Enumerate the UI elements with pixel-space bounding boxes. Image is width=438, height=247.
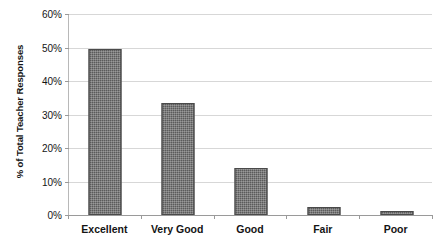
- gridline-0pct: [69, 215, 432, 216]
- bar-chart: % of Total Teacher Responses 60%50%40%30…: [0, 0, 438, 247]
- y-tick-label: 50%: [22, 42, 62, 53]
- bar-excellent[interactable]: [89, 49, 122, 215]
- chart-title-cropped: [150, 0, 310, 3]
- bar-slot: [360, 14, 433, 215]
- x-tick-mark: [214, 215, 215, 219]
- plot-area: [68, 14, 432, 215]
- x-tick-mark: [286, 215, 287, 219]
- bar-good[interactable]: [234, 168, 267, 215]
- y-tick-label: 40%: [22, 76, 62, 87]
- bar-very-good[interactable]: [162, 103, 195, 215]
- bar-poor[interactable]: [380, 211, 413, 215]
- bar-slot: [287, 14, 360, 215]
- x-tick-mark: [432, 215, 433, 219]
- x-tick-mark: [68, 215, 69, 219]
- y-tick-label: 0%: [22, 210, 62, 221]
- y-tick-label: 60%: [22, 9, 62, 20]
- x-tick-mark: [141, 215, 142, 219]
- bar-slot: [69, 14, 142, 215]
- x-tick-mark: [359, 215, 360, 219]
- bar-slot: [215, 14, 288, 215]
- bars-layer: [69, 14, 432, 215]
- y-tick-label: 20%: [22, 143, 62, 154]
- y-tick-label: 10%: [22, 176, 62, 187]
- x-label-poor: Poor: [351, 223, 438, 235]
- y-tick-label: 30%: [22, 109, 62, 120]
- bar-fair[interactable]: [307, 207, 340, 215]
- bar-slot: [142, 14, 215, 215]
